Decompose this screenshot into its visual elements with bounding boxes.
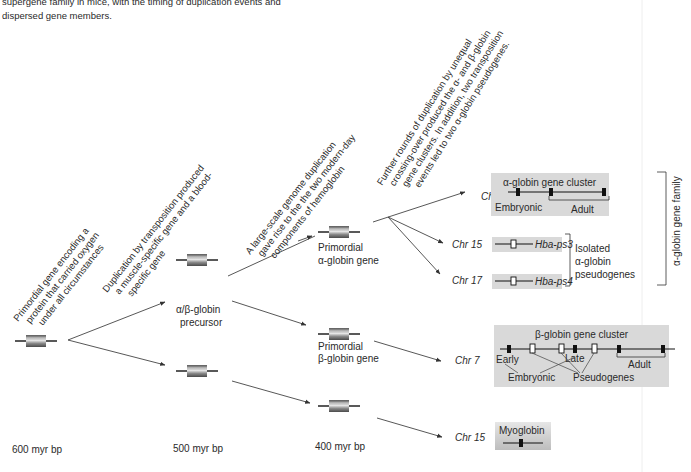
svg-text:Embryonic: Embryonic bbox=[508, 372, 555, 383]
alpha-primordial-gene-icon bbox=[318, 226, 360, 238]
ab-precursor-label-2: precursor bbox=[180, 317, 223, 328]
svg-text:protein that carried oxygen: protein that carried oxygen bbox=[23, 230, 101, 325]
beta-primordial-label-2: β-globin gene bbox=[318, 353, 379, 364]
hba-ps4: Hba-ps4 bbox=[492, 274, 573, 289]
beta-primordial-gene-icon bbox=[318, 328, 360, 340]
alpha-family-label: α-globin gene family bbox=[671, 176, 682, 266]
svg-text:Adult: Adult bbox=[628, 359, 651, 370]
chr17-label: Chr 17 bbox=[452, 275, 482, 286]
svg-text:Pseudogenes: Pseudogenes bbox=[573, 372, 634, 383]
annotation-transposition: Duplication by transposition produced a … bbox=[100, 163, 224, 308]
svg-text:a muscle-specific gene and a b: a muscle-specific gene and a blood- bbox=[112, 170, 214, 297]
svg-text:Late: Late bbox=[565, 353, 585, 364]
globin-evolution-diagram: supergene family in mice, with the timin… bbox=[0, 0, 691, 472]
svg-text:gene clusters. In addition, t: gene clusters. In addition, two transpos… bbox=[399, 28, 505, 188]
pseudogene-group-label-1: Isolated bbox=[575, 243, 610, 254]
ab-precursor-gene-icon bbox=[176, 254, 218, 266]
svg-text:β-globin gene cluster: β-globin gene cluster bbox=[535, 329, 629, 340]
arrow-to-chr11 bbox=[373, 192, 465, 222]
time-600: 600 myr bp bbox=[12, 444, 62, 455]
svg-text:Embryonic: Embryonic bbox=[495, 202, 542, 213]
alpha-primordial-label-1: Primordial bbox=[318, 242, 363, 253]
svg-text:Myoglobin: Myoglobin bbox=[499, 425, 545, 436]
arrow-to-myoglobin-lineage bbox=[68, 340, 165, 365]
beta-globin-cluster: β-globin gene cluster Early Late Adult E… bbox=[494, 325, 675, 387]
svg-text:Early: Early bbox=[496, 354, 519, 365]
arrow-to-chr17 bbox=[388, 217, 440, 274]
chr15-ps-label: Chr 15 bbox=[452, 239, 482, 250]
alpha-globin-cluster: α-globin gene cluster Embryonic Adult bbox=[491, 173, 609, 216]
chr7-label: Chr 7 bbox=[455, 355, 480, 366]
svg-text:Hba-ps4: Hba-ps4 bbox=[535, 276, 573, 287]
beta-primordial-label-1: Primordial bbox=[318, 341, 363, 352]
caption-line-2: dispersed gene members. bbox=[2, 10, 112, 21]
chr15-myoglobin-label: Chr 15 bbox=[455, 432, 485, 443]
svg-text:Hba-ps3: Hba-ps3 bbox=[535, 239, 573, 250]
arrow-to-myoglobin-ancestor bbox=[232, 381, 310, 403]
pseudogene-group-label-3: pseudogenes bbox=[575, 269, 635, 280]
caption-line-1: supergene family in mice, with the timin… bbox=[2, 0, 281, 7]
annotation-primordial: Primordial gene encoding a protein that … bbox=[11, 223, 110, 337]
myoglobin-ancestor-gene-icon bbox=[318, 400, 360, 412]
svg-text:α-globin gene cluster: α-globin gene cluster bbox=[503, 177, 597, 188]
family-bracket bbox=[657, 172, 666, 285]
svg-text:gave rise to the the two moder: gave rise to the the two modern-day bbox=[255, 132, 357, 258]
ab-precursor-label-1: α/β-globin bbox=[176, 304, 220, 315]
pseudogene-group-label-2: α-globin bbox=[575, 256, 611, 267]
time-400: 400 myr bp bbox=[315, 441, 365, 452]
arrow-to-precursor bbox=[68, 302, 165, 340]
time-500: 500 myr bp bbox=[173, 443, 223, 454]
svg-text:crossing-over produced the α-: crossing-over produced the α- and β-glob… bbox=[387, 28, 493, 188]
myoglobin-box: Myoglobin bbox=[495, 422, 551, 450]
svg-text:Adult: Adult bbox=[571, 204, 594, 215]
svg-text:Duplication by transposition p: Duplication by transposition produced bbox=[100, 163, 206, 295]
myoglobin-lineage-gene-icon bbox=[176, 365, 218, 377]
arrow-to-chr7 bbox=[374, 341, 441, 361]
arrow-to-beta-primordial bbox=[232, 301, 306, 325]
hba-ps3: Hba-ps3 bbox=[492, 237, 573, 252]
primordial-gene-icon bbox=[15, 335, 57, 347]
alpha-primordial-label-2: α-globin gene bbox=[318, 255, 379, 266]
arrow-to-chr15-myoglobin bbox=[377, 418, 442, 437]
arrow-to-chr15-ps bbox=[388, 217, 443, 243]
